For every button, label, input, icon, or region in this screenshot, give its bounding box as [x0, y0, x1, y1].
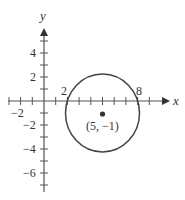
center-point: [100, 111, 105, 116]
x-tick-label-neg2: −2: [11, 106, 24, 120]
y-tick-label-neg6: −6: [23, 166, 36, 180]
y-axis: [40, 30, 48, 192]
x-axis-label: x: [172, 93, 179, 108]
y-tick-label-4: 4: [30, 46, 36, 60]
y-tick-label-neg2: −2: [23, 118, 36, 132]
x-tick-label-2: 2: [61, 84, 67, 98]
coordinate-plane: x y 4 2 −2 −4 −6 −2 2 8 (5, −1): [0, 0, 185, 200]
center-label: (5, −1): [86, 119, 119, 133]
y-tick-label-2: 2: [30, 70, 36, 84]
y-tick-label-neg4: −4: [23, 142, 36, 156]
x-tick-label-8: 8: [136, 84, 142, 98]
y-axis-label: y: [38, 8, 46, 23]
x-axis: [8, 97, 168, 105]
